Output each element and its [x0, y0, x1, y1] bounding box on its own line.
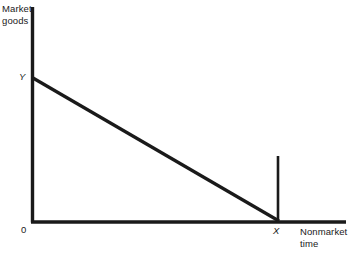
- x-axis-title: Nonmarket time: [300, 226, 358, 249]
- chart-canvas: [0, 0, 359, 256]
- x-intercept-label: X: [273, 226, 279, 236]
- budget-constraint-figure: Market goods Nonmarket time 0 Y X: [0, 0, 359, 256]
- y-intercept-label: Y: [19, 72, 25, 82]
- y-axis-title: Market goods: [2, 3, 34, 26]
- budget-constraint-line: [33, 78, 279, 221]
- origin-label: 0: [21, 225, 26, 235]
